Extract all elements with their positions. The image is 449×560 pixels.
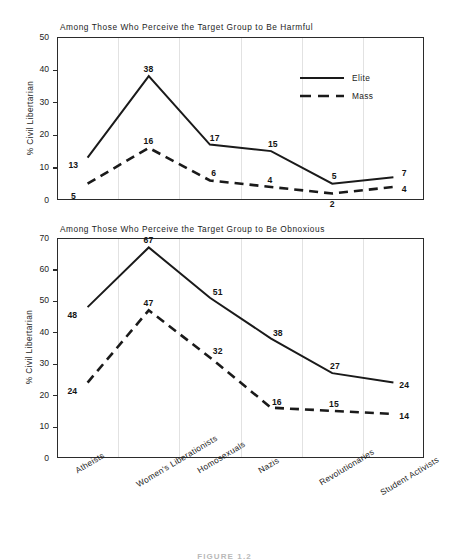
figure-caption: FIGURE 1.2: [0, 552, 449, 560]
data-label: 27: [330, 361, 340, 371]
data-label: 67: [144, 235, 154, 245]
data-label: 24: [67, 386, 77, 396]
data-label: 47: [144, 298, 154, 308]
data-label: 14: [399, 411, 409, 421]
data-label: 48: [67, 310, 77, 320]
data-label: 16: [272, 397, 282, 407]
data-label: 51: [213, 287, 223, 297]
data-label: 32: [213, 346, 223, 356]
data-label: 24: [399, 380, 409, 390]
figure-container: Among Those Who Perceive the Target Grou…: [0, 0, 449, 560]
data-label: 15: [329, 399, 339, 409]
series-line-elite: [88, 247, 394, 382]
data-label: 38: [273, 328, 283, 338]
series-line-mass: [88, 310, 394, 414]
series-lines-obnoxious: [0, 0, 449, 560]
